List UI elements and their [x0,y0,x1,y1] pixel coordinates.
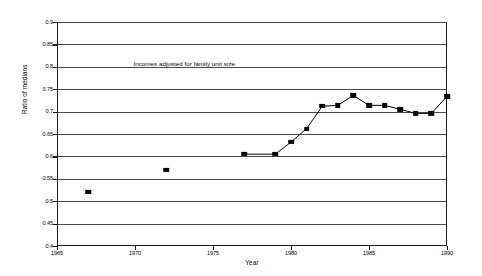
series-line-path [57,22,447,246]
y-tick-label: 0.5 [26,198,53,205]
y-tick-label: 0.6 [26,153,53,160]
x-tick-label: 1990 [441,250,453,257]
data-point-marker [319,104,325,108]
data-point-marker [413,111,419,115]
data-point-marker [429,111,435,115]
data-point-marker [366,103,372,107]
y-tick-label-text: 0.9 [46,19,53,25]
y-tick-label-text: 0.6 [46,153,53,159]
y-tick-label-text: 0.55 [43,175,54,181]
y-tick-label-text: 0.8 [46,63,53,69]
y-tick-label: 0.9 [26,19,53,26]
data-point-marker [273,152,279,156]
y-tick-label: 0.7 [26,108,53,115]
x-axis-title: Year [57,259,447,266]
y-tick-label-text: 0.7 [46,108,53,114]
y-tick-label: 0.4 [26,243,53,250]
data-point-marker [241,152,247,156]
x-tick-label: 1965 [51,250,63,257]
x-tick-label: 1980 [285,250,297,257]
data-point-marker [444,94,450,98]
y-tick-label-text: 0.75 [43,86,54,92]
data-point-marker [163,168,169,172]
data-point-marker [288,140,294,144]
y-tick-label: 0.75 [26,86,53,93]
data-point-marker [304,127,310,131]
data-point-marker [397,107,403,111]
y-tick-label-text: 0.45 [43,220,54,226]
data-point-marker [85,190,91,194]
y-axis-title: Ratio of medians [21,64,28,114]
y-tick-label: 0.65 [26,131,53,138]
y-tick-label-text: 0.5 [46,198,53,204]
data-point-marker [382,103,388,107]
chart-container: 0.40.450.50.550.60.650.70.750.80.850.9 1… [0,0,482,276]
y-tick-label-text: 0.4 [46,243,53,249]
x-tick-label: 1970 [129,250,141,257]
y-tick-label: 0.8 [26,63,53,70]
y-tick-label: 0.85 [26,41,53,48]
y-tick-label-text: 0.85 [43,41,54,47]
data-point-marker [335,103,341,107]
y-tick-label: 0.45 [26,220,53,227]
y-tick-label: 0.55 [26,175,53,182]
x-tick-label: 1985 [363,250,375,257]
y-tick-label-text: 0.65 [43,131,54,137]
data-point-marker [351,93,357,97]
plot-area: 0.40.450.50.550.60.650.70.750.80.850.9 1… [57,22,447,246]
x-tick-label: 1975 [207,250,219,257]
